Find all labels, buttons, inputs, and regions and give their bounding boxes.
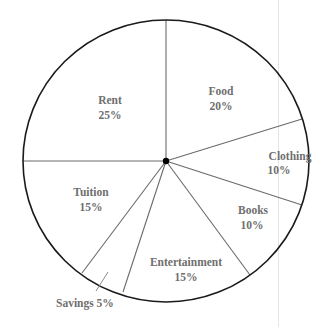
pct-tuition: 15% <box>80 201 103 213</box>
pie-chart: Food 20% Clothing 10% Books 10% Entertai… <box>0 0 326 327</box>
label-entertainment: Entertainment <box>150 256 222 268</box>
label-books: Books <box>238 204 269 216</box>
label-clothing: Clothing <box>269 150 312 163</box>
pct-books: 10% <box>241 219 264 231</box>
label-rent: Rent <box>98 94 122 106</box>
label-food: Food <box>209 85 235 97</box>
label-savings: Savings 5% <box>56 297 114 310</box>
center-dot <box>163 158 169 164</box>
savings-leader-line <box>96 272 108 291</box>
pct-food: 20% <box>210 100 233 112</box>
pct-entertainment: 15% <box>175 271 198 283</box>
pct-clothing: 10% <box>268 164 291 176</box>
label-tuition: Tuition <box>73 186 109 198</box>
pct-rent: 25% <box>99 109 122 121</box>
